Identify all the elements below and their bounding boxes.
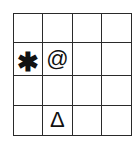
cell-r1-c4 — [102, 14, 131, 43]
cell-r2-c4 — [102, 43, 131, 76]
cell-r4-c4 — [102, 106, 131, 135]
cell-r3-c3 — [73, 76, 102, 105]
cell-r4-c2: Δ — [43, 106, 72, 135]
cell-r2-c1: ✱ — [14, 43, 43, 76]
cell-r1-c2 — [43, 14, 72, 43]
cell-r1-c1 — [14, 14, 43, 43]
cell-r4-c1 — [14, 106, 43, 135]
cell-r2-c3 — [73, 43, 102, 76]
delta-icon: Δ — [50, 109, 65, 131]
cell-r3-c2 — [43, 76, 72, 105]
cell-r3-c4 — [102, 76, 131, 105]
at-sign-icon: @ — [46, 48, 68, 70]
cell-r4-c3 — [73, 106, 102, 135]
cell-r2-c2: @ — [43, 43, 72, 76]
cell-r1-c3 — [73, 14, 102, 43]
cell-r3-c1 — [14, 76, 43, 105]
asterisk-icon: ✱ — [17, 49, 39, 75]
symbol-grid: ✱ @ Δ — [13, 13, 132, 136]
